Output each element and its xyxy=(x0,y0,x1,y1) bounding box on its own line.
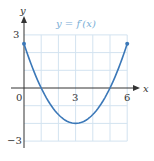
endpoint-right xyxy=(125,42,129,46)
y-axis-arrow-icon xyxy=(21,16,27,23)
x-tick-6: 6 xyxy=(124,92,130,103)
y-tick-neg3: −3 xyxy=(7,135,22,146)
x-tick-3: 3 xyxy=(72,92,78,103)
x-tick-0: 0 xyxy=(16,92,22,103)
chart-title: y = f′(x) xyxy=(55,18,96,29)
axes xyxy=(11,20,134,148)
x-axis-label: x xyxy=(143,83,149,94)
endpoint-left xyxy=(22,42,26,46)
y-axis-label: y xyxy=(19,5,26,16)
x-axis-arrow-icon xyxy=(133,85,140,91)
y-tick-3: 3 xyxy=(13,29,19,40)
chart: y = f′(x) x y 0 3 6 3 −3 xyxy=(0,0,154,161)
